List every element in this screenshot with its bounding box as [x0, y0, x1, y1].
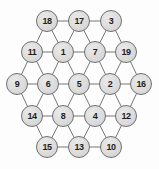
hex-node-10[interactable]: 10 [100, 136, 122, 158]
hex-node-2[interactable]: 2 [99, 73, 121, 95]
hex-node-9[interactable]: 9 [6, 73, 28, 95]
hex-node-label: 16 [136, 80, 145, 89]
hex-node-5[interactable]: 5 [68, 73, 90, 95]
hex-node-18[interactable]: 18 [36, 10, 58, 32]
hex-node-3[interactable]: 3 [100, 10, 122, 32]
hex-node-label: 7 [93, 48, 98, 57]
hex-node-label: 10 [106, 143, 115, 152]
hex-node-label: 11 [28, 48, 37, 57]
hex-node-label: 5 [77, 80, 82, 89]
hex-node-4[interactable]: 4 [84, 105, 106, 127]
hex-node-7[interactable]: 7 [84, 41, 106, 63]
hex-node-19[interactable]: 19 [115, 41, 137, 63]
hex-node-label: 12 [121, 112, 130, 121]
hex-node-17[interactable]: 17 [68, 10, 90, 32]
hex-node-label: 6 [46, 80, 51, 89]
hex-node-13[interactable]: 13 [68, 136, 90, 158]
magic-hexagon-diagram: 18173111719965216148412151310 [0, 0, 159, 169]
hex-node-label: 8 [61, 112, 66, 121]
hex-node-label: 3 [109, 17, 114, 26]
hex-node-label: 2 [108, 80, 113, 89]
hex-node-14[interactable]: 14 [21, 105, 43, 127]
hex-node-label: 13 [74, 143, 83, 152]
hex-node-label: 4 [93, 112, 98, 121]
hex-node-label: 18 [42, 17, 51, 26]
hex-node-label: 9 [15, 80, 20, 89]
hex-node-15[interactable]: 15 [36, 136, 58, 158]
hex-node-16[interactable]: 16 [130, 73, 152, 95]
hex-node-11[interactable]: 11 [21, 41, 43, 63]
node-layer: 18173111719965216148412151310 [0, 0, 159, 169]
hex-node-label: 19 [121, 48, 130, 57]
hex-node-12[interactable]: 12 [115, 105, 137, 127]
hex-node-1[interactable]: 1 [52, 41, 74, 63]
hex-node-label: 15 [42, 143, 51, 152]
hex-node-label: 17 [74, 17, 83, 26]
hex-node-label: 1 [61, 48, 66, 57]
hex-node-8[interactable]: 8 [52, 105, 74, 127]
hex-node-label: 14 [27, 112, 36, 121]
hex-node-6[interactable]: 6 [37, 73, 59, 95]
